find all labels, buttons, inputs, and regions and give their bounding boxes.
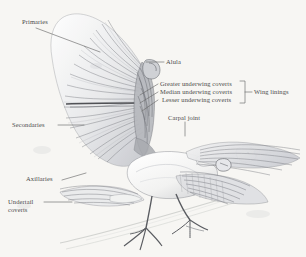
- bird-anatomy-figure: Primaries Alula Greater underwing covert…: [0, 0, 306, 257]
- label-undertail-coverts-line1: Undertail: [8, 198, 33, 206]
- leader-primaries: [36, 28, 100, 52]
- label-median-underwing-coverts: Median underwing coverts: [160, 88, 232, 96]
- label-axillaries: Axillaries: [26, 175, 53, 183]
- label-lesser-underwing-coverts: Lesser underwing coverts: [162, 96, 231, 104]
- label-primaries: Primaries: [22, 18, 48, 26]
- label-carpal-joint: Carpal joint: [168, 114, 200, 122]
- label-wing-linings: Wing linings: [254, 88, 289, 96]
- wing-linings-bracket: [240, 81, 252, 103]
- callout-overlay: [0, 0, 306, 257]
- label-secondaries: Secondaries: [12, 121, 45, 129]
- label-alula: Alula: [166, 58, 181, 66]
- label-greater-underwing-coverts: Greater underwing coverts: [160, 80, 232, 88]
- leader-lesser-coverts: [142, 100, 158, 111]
- leader-axillaries: [62, 173, 86, 180]
- label-undertail-coverts-line2: coverts: [8, 206, 27, 214]
